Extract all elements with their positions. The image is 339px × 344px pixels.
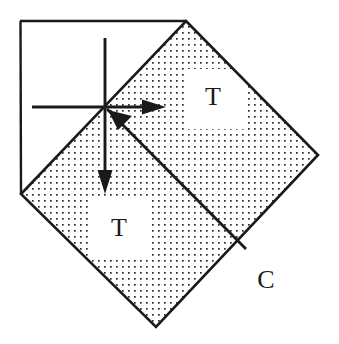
label-region-lower: T [111, 213, 127, 242]
geometry-diagram-svg: T T C [0, 0, 339, 344]
label-region-upper: T [205, 82, 221, 111]
outer-square-left-edge [21, 21, 22, 194]
figure-canvas: T T C [0, 0, 339, 344]
label-outer-region: C [257, 265, 274, 294]
